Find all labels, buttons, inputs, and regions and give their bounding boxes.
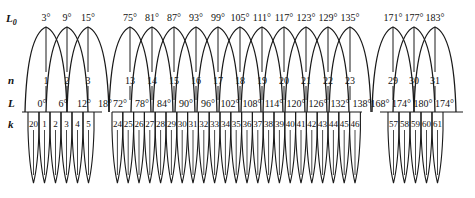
l0-label: 171° (384, 12, 403, 23)
l0-label: 9° (63, 12, 72, 23)
l0-label: 87° (167, 12, 181, 23)
k-label: 3 (64, 119, 69, 129)
n-label: 23 (345, 75, 355, 86)
l0-label: 15° (81, 12, 95, 23)
row-label-l0: L0 (5, 12, 17, 27)
group-1: 3°19°215°30°6°12°18°2012345 (22, 12, 112, 183)
k-label: 35 (232, 119, 242, 129)
l0-label: 129° (319, 12, 338, 23)
k-label: 41 (297, 119, 306, 129)
diagram-canvas: L0 n L k 3°19°215°30°6°12°18°201234575°1… (0, 0, 475, 198)
k-label: 5 (86, 119, 91, 129)
l-label: 180° (414, 98, 433, 109)
group-3: 171°29177°30183°31168°174°180°174°575859… (371, 12, 464, 183)
l-label: 90° (179, 98, 193, 109)
l-label: 174° (435, 98, 454, 109)
k-label: 57 (389, 119, 399, 129)
k-label: 37 (253, 119, 263, 129)
k-label: 61 (433, 119, 442, 129)
k-label: 2 (53, 119, 58, 129)
l0-label: 183° (426, 12, 445, 23)
k-label: 42 (307, 119, 316, 129)
l0-label: 117° (275, 12, 294, 23)
solar-term-diagram: L0 n L k 3°19°215°30°6°12°18°201234575°1… (0, 0, 475, 198)
l0-label: 111° (253, 12, 271, 23)
l-label: 6° (59, 98, 68, 109)
l0-label: 99° (211, 12, 225, 23)
row-label-n: n (8, 74, 14, 86)
k-label: 38 (264, 119, 274, 129)
l0-label: 135° (341, 12, 360, 23)
n-label: 31 (430, 75, 440, 86)
l0-label: 81° (145, 12, 159, 23)
l-label: 174° (392, 98, 411, 109)
k-label: 29 (167, 119, 177, 129)
l0-label: 75° (123, 12, 137, 23)
k-label: 59 (411, 119, 421, 129)
k-label: 32 (199, 119, 208, 129)
k-label: 31 (189, 119, 198, 129)
l-label: 132° (331, 98, 350, 109)
k-label: 34 (221, 119, 231, 129)
k-label: 60 (422, 119, 432, 129)
k-label: 33 (210, 119, 220, 129)
k-label: 25 (124, 119, 134, 129)
k-label: 26 (135, 119, 145, 129)
l-label: 0° (38, 98, 47, 109)
k-label: 36 (243, 119, 253, 129)
l-label: 78° (135, 98, 149, 109)
l-label: 72° (113, 98, 127, 109)
row-labels: L0 n L k (5, 12, 17, 130)
n-label: 29 (388, 75, 398, 86)
l-label: 96° (201, 98, 215, 109)
k-label: 40 (286, 119, 296, 129)
l-label: 114° (265, 98, 284, 109)
l-label: 84° (157, 98, 171, 109)
k-label: 24 (113, 119, 123, 129)
k-label: 28 (156, 119, 166, 129)
k-label: 30 (178, 119, 188, 129)
k-label: 1 (42, 119, 47, 129)
k-label: 39 (275, 119, 285, 129)
l0-label: 123° (297, 12, 316, 23)
l0-label: 3° (42, 12, 51, 23)
l-label: 168° (371, 98, 390, 109)
l-label: 126° (309, 98, 328, 109)
diagram-body: 3°19°215°30°6°12°18°201234575°1381°1487°… (22, 12, 463, 183)
k-label: 27 (145, 119, 155, 129)
k-label: 20 (29, 119, 39, 129)
group-2: 75°1381°1487°1593°1699°17105°18111°19117… (109, 12, 372, 183)
n-label: 3 (86, 75, 91, 86)
k-label: 58 (400, 119, 410, 129)
l0-label: 105° (231, 12, 250, 23)
n-label: 30 (409, 75, 419, 86)
l-label: 102° (221, 98, 240, 109)
k-label: 45 (340, 119, 350, 129)
k-label: 43 (318, 119, 328, 129)
k-label: 46 (351, 119, 361, 129)
l0-label: 177° (405, 12, 424, 23)
k-label: 44 (329, 119, 339, 129)
l-label: 12° (77, 98, 91, 109)
row-label-l: L (7, 97, 15, 109)
l-label: 138° (353, 98, 372, 109)
l-label: 108° (243, 98, 262, 109)
row-label-k: k (8, 118, 14, 130)
l0-label: 93° (189, 12, 203, 23)
k-label: 4 (75, 119, 80, 129)
l-label: 120° (287, 98, 306, 109)
